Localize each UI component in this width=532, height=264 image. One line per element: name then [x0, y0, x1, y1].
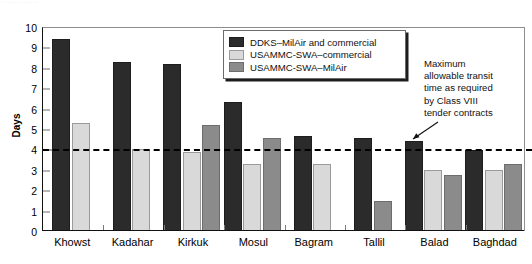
chart-figure: ············ Days 012345678910 DDKS–MilA… — [0, 0, 532, 264]
y-axis-tick-label: 0 — [31, 226, 43, 238]
bar — [183, 152, 201, 231]
bar — [405, 141, 423, 231]
annotation-line: time as required — [424, 82, 528, 94]
annotation-line: Maximum — [424, 58, 528, 70]
y-axis-tick-label: 3 — [31, 165, 43, 177]
x-axis-category-label: Khowst — [54, 236, 90, 248]
y-axis-tick-label: 10 — [25, 22, 43, 34]
legend-swatch — [229, 62, 244, 72]
legend-label: USAMMC-SWA–MilAir — [250, 62, 347, 73]
clipped-header-remnant: ············ — [2, 0, 132, 5]
bar — [72, 123, 90, 231]
x-axis-category-label: Bagram — [294, 236, 333, 248]
bar — [243, 164, 261, 231]
x-axis-line — [43, 230, 524, 231]
bar — [354, 138, 372, 231]
bar — [202, 125, 220, 231]
bar — [132, 149, 150, 231]
y-axis-tick-label: 4 — [31, 144, 43, 156]
legend-label: USAMMC-SWA–commercial — [250, 49, 372, 60]
bar — [313, 164, 331, 231]
y-axis-tick-label: 7 — [31, 83, 43, 95]
y-axis-tick-label: 6 — [31, 104, 43, 116]
bar-group — [164, 28, 224, 231]
y-axis-tick-label: 2 — [31, 185, 43, 197]
threshold-line — [43, 149, 532, 151]
y-axis-title: Days — [11, 96, 22, 156]
legend-swatch — [229, 50, 244, 60]
bar — [465, 150, 483, 231]
bar — [163, 64, 181, 231]
legend-label: DDKS–MilAir and commercial — [250, 37, 376, 48]
legend-item: DDKS–MilAir and commercial — [229, 37, 399, 48]
bar — [113, 62, 131, 231]
annotation-line: tender contracts — [424, 107, 528, 119]
x-axis-category-label: Mosul — [239, 236, 268, 248]
bar — [444, 175, 462, 231]
chart-legend: DDKS–MilAir and commercialUSAMMC-SWA–com… — [223, 30, 406, 79]
y-axis-tick-label: 1 — [31, 206, 43, 218]
legend-item: USAMMC-SWA–commercial — [229, 49, 399, 60]
threshold-annotation: Maximumallowable transittime as required… — [424, 58, 528, 119]
legend-swatch — [229, 37, 244, 47]
annotation-line: by Class VIII — [424, 95, 528, 107]
y-axis-tick-label: 9 — [31, 42, 43, 54]
y-axis-tick-label: 8 — [31, 63, 43, 75]
x-axis-category-label: Tallil — [363, 236, 384, 248]
x-axis-category-label: Balad — [420, 236, 448, 248]
bar — [374, 201, 392, 231]
legend-item: USAMMC-SWA–MilAir — [229, 62, 399, 73]
x-axis-category-label: Kirkuk — [178, 236, 209, 248]
bar — [504, 164, 522, 231]
bar-group — [43, 28, 103, 231]
annotation-line: allowable transit — [424, 70, 528, 82]
bar-group — [103, 28, 163, 231]
x-axis-category-label: Kadahar — [112, 236, 154, 248]
bar — [424, 170, 442, 231]
x-axis-category-label: Baghdad — [473, 236, 517, 248]
bar — [224, 102, 242, 231]
bar — [263, 138, 281, 231]
bar — [52, 39, 70, 231]
bar — [485, 170, 503, 231]
y-axis-tick-label: 5 — [31, 124, 43, 136]
